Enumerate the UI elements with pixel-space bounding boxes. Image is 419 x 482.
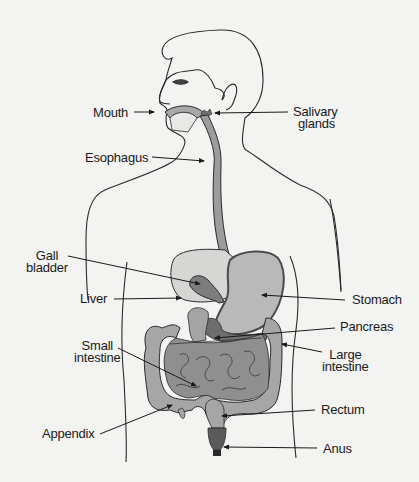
duodenum-shape xyxy=(188,308,209,342)
label-anus: Anus xyxy=(323,443,352,455)
label-small-line2: intestine xyxy=(74,352,121,364)
esophagus-shape xyxy=(200,115,230,260)
label-salivary-glands: Salivary glands xyxy=(293,106,338,130)
anus-shape xyxy=(208,428,226,450)
label-rectum: Rectum xyxy=(321,404,365,416)
label-mouth: Mouth xyxy=(93,107,128,119)
rectum-shape xyxy=(205,399,224,428)
appendix-shape xyxy=(178,408,185,419)
label-salivary-line2: glands xyxy=(293,118,338,130)
small-intestine-shape xyxy=(164,334,269,401)
label-gall-bladder: Gall bladder xyxy=(26,250,68,274)
label-gall-line2: bladder xyxy=(26,262,68,274)
label-liver: Liver xyxy=(80,293,107,305)
label-appendix: Appendix xyxy=(42,428,95,440)
label-pancreas: Pancreas xyxy=(340,321,393,333)
label-small-intestine: Small intestine xyxy=(74,340,121,364)
label-esophagus: Esophagus xyxy=(85,152,148,164)
mouth-cavity xyxy=(165,106,205,132)
label-stomach: Stomach xyxy=(352,294,402,306)
label-large-intestine: Large intestine xyxy=(322,349,369,373)
label-large-line2: intestine xyxy=(322,361,369,373)
